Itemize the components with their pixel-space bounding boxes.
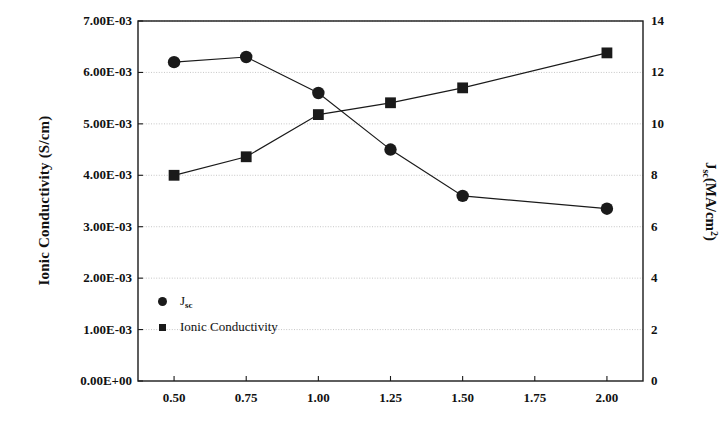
legend-item-ionic-conductivity: Ionic Conductivity (158, 314, 278, 340)
data-point (169, 170, 180, 181)
square-marker-icon (158, 324, 180, 331)
data-point (457, 82, 468, 93)
data-point (385, 97, 396, 108)
data-point (312, 87, 324, 99)
legend-item-jsc: Jsc (158, 288, 278, 314)
data-point (313, 109, 324, 120)
data-point (602, 47, 613, 58)
series-line-2 (174, 53, 607, 175)
legend-label-jsc: Jsc (180, 293, 193, 310)
data-point (168, 56, 180, 68)
data-point (240, 51, 252, 63)
data-point (456, 190, 468, 202)
circle-marker-icon (158, 297, 180, 306)
legend-label-jsc-sub: sc (185, 300, 193, 310)
data-point (241, 151, 252, 162)
data-point (384, 143, 396, 155)
series-line-1 (174, 57, 607, 209)
data-point (601, 203, 613, 215)
chart-legend: Jsc Ionic Conductivity (158, 288, 278, 340)
legend-label-ionic-conductivity: Ionic Conductivity (180, 319, 278, 335)
